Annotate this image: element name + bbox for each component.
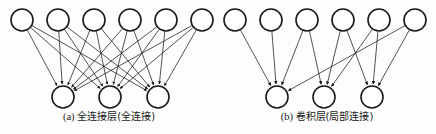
caption-label-a: (a) (63, 111, 75, 122)
input-node-0 (224, 9, 246, 31)
input-node-group (11, 9, 213, 31)
input-node-1 (260, 9, 282, 31)
caption-fully-connected: (a) 全连接层(全连接) (0, 110, 218, 124)
connection-edge-1-0 (272, 31, 276, 84)
input-node-1 (47, 9, 69, 31)
output-node-2 (147, 86, 169, 108)
input-node-group (224, 9, 426, 31)
connection-edge-2-1 (96, 31, 107, 84)
output-node-group (52, 86, 169, 108)
caption-convolutional: (b) 卷积层(局部连接) (218, 110, 436, 124)
input-node-5 (404, 9, 426, 31)
output-node-1 (313, 86, 335, 108)
edge-group (27, 26, 196, 91)
connection-edge-4-1 (118, 29, 160, 86)
connection-edge-2-1 (309, 31, 321, 84)
output-node-0 (266, 86, 288, 108)
output-node-0 (52, 86, 74, 108)
output-node-2 (361, 86, 383, 108)
connection-edge-4-2 (373, 31, 378, 84)
panel-convolutional: (b) 卷积层(局部连接) (218, 0, 436, 134)
output-node-group (266, 86, 383, 108)
input-node-4 (368, 9, 390, 31)
neural-network-comparison-figure: (a) 全连接层(全连接) (b) 卷积层(局部连接) (0, 0, 436, 134)
connection-edge-1-0 (59, 31, 62, 84)
convolutional-network-graph (218, 0, 436, 110)
connection-edge-0-0 (241, 30, 271, 85)
connection-edge-3-2 (347, 31, 367, 85)
output-node-1 (99, 86, 121, 108)
connection-edge-4-1 (332, 29, 373, 86)
input-node-0 (11, 9, 33, 31)
edge-group (241, 26, 410, 91)
caption-text-a: 全连接层(全连接) (77, 111, 155, 122)
caption-label-b: (b) (281, 111, 293, 122)
connection-edge-5-2 (378, 30, 409, 86)
connection-edge-4-0 (73, 27, 156, 89)
input-node-5 (191, 9, 213, 31)
input-node-4 (155, 9, 177, 31)
connection-edge-3-2 (134, 31, 154, 85)
caption-text-b: 卷积层(局部连接) (296, 111, 374, 122)
connection-edge-5-1 (120, 27, 193, 88)
fully-connected-network-graph (0, 0, 218, 110)
connection-edge-5-0 (74, 26, 192, 91)
input-node-2 (83, 9, 105, 31)
panel-fully-connected: (a) 全连接层(全连接) (0, 0, 218, 134)
input-node-2 (296, 9, 318, 31)
connection-edge-2-0 (282, 31, 303, 85)
connection-edge-0-0 (27, 30, 56, 85)
input-node-3 (332, 9, 354, 31)
connection-edge-4-2 (159, 31, 164, 84)
input-node-3 (119, 9, 141, 31)
connection-edge-5-0 (288, 26, 405, 91)
